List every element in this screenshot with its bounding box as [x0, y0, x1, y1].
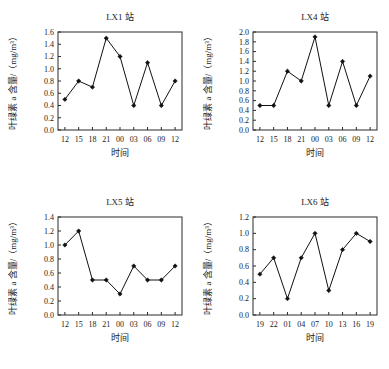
chart-title-lx6: LX6 站 — [301, 196, 329, 207]
y-tick-label-lx6-4: 0.8 — [239, 245, 249, 254]
data-point-lx4-4 — [312, 35, 316, 39]
y-tick-label-lx5-7: 1.4 — [44, 212, 54, 221]
data-point-lx6-2 — [285, 296, 289, 300]
x-tick-label-lx4-2: 18 — [283, 135, 291, 144]
y-tick-label-lx4-0: 0.0 — [239, 126, 249, 135]
y-tick-label-lx5-6: 1.2 — [44, 226, 54, 235]
plot-frame-lx5 — [58, 217, 182, 315]
data-point-lx1-8 — [173, 79, 177, 83]
y-tick-label-lx6-1: 0.2 — [239, 294, 249, 303]
x-tick-label-lx1-4: 00 — [116, 135, 124, 144]
x-tick-label-lx6-8: 19 — [366, 320, 374, 329]
x-tick-label-lx1-3: 21 — [102, 135, 110, 144]
x-tick-label-lx6-4: 07 — [311, 320, 319, 329]
y-tick-label-lx1-5: 1.0 — [44, 65, 54, 74]
x-tick-label-lx5-7: 09 — [157, 320, 165, 329]
y-tick-label-lx6-2: 0.4 — [239, 278, 249, 287]
x-tick-label-lx5-1: 15 — [75, 320, 83, 329]
y-tick-label-lx6-6: 1.2 — [239, 212, 249, 221]
chart-panel-lx4: LX4 站0.00.20.40.60.81.01.21.41.61.82.012… — [195, 0, 389, 184]
y-tick-label-lx4-2: 0.4 — [239, 106, 249, 115]
series-line-lx5 — [65, 231, 175, 294]
x-tick-label-lx4-1: 15 — [269, 135, 277, 144]
x-tick-label-lx4-6: 06 — [338, 135, 346, 144]
chart-svg-lx6: LX6 站0.00.20.40.60.81.01.219220104071013… — [195, 185, 389, 369]
chart-title-lx4: LX4 站 — [301, 11, 329, 22]
data-point-lx4-6 — [340, 59, 344, 63]
data-point-lx1-2 — [90, 85, 94, 89]
x-tick-label-lx1-7: 09 — [157, 135, 165, 144]
x-tick-label-lx5-0: 12 — [61, 320, 69, 329]
y-tick-label-lx1-3: 0.6 — [44, 89, 54, 98]
y-tick-label-lx5-2: 0.4 — [44, 282, 54, 291]
x-axis-title-lx4: 时间 — [306, 147, 324, 158]
x-tick-label-lx4-4: 00 — [311, 135, 319, 144]
data-point-lx1-7 — [159, 103, 163, 107]
x-tick-label-lx4-0: 12 — [255, 135, 263, 144]
x-tick-label-lx5-5: 03 — [130, 320, 138, 329]
y-tick-label-lx1-7: 1.4 — [44, 40, 54, 49]
y-tick-label-lx5-1: 0.2 — [44, 296, 54, 305]
x-axis-title-lx6: 时间 — [306, 332, 324, 343]
y-tick-label-lx6-3: 0.6 — [239, 261, 249, 270]
y-axis-title-lx5: 叶绿素 a 含量/（mg/m³） — [7, 217, 18, 315]
y-tick-label-lx4-4: 0.8 — [239, 87, 249, 96]
chart-title-lx1: LX1 站 — [106, 11, 134, 22]
data-point-lx6-3 — [299, 255, 303, 259]
chart-svg-lx5: LX5 站0.00.20.40.60.81.01.21.412151821000… — [0, 185, 194, 369]
chart-svg-lx4: LX4 站0.00.20.40.60.81.01.21.41.61.82.012… — [195, 0, 389, 184]
chart-panel-lx6: LX6 站0.00.20.40.60.81.01.219220104071013… — [195, 185, 389, 369]
x-tick-label-lx5-6: 06 — [144, 320, 152, 329]
x-tick-label-lx5-4: 00 — [116, 320, 124, 329]
x-tick-label-lx6-7: 16 — [352, 320, 360, 329]
x-tick-label-lx6-5: 10 — [324, 320, 332, 329]
series-line-lx4 — [259, 37, 369, 106]
y-tick-label-lx5-3: 0.6 — [44, 268, 54, 277]
y-tick-label-lx5-0: 0.0 — [44, 310, 54, 319]
y-axis-title-lx4: 叶绿素 a 含量/（mg/m³） — [202, 32, 213, 130]
series-line-lx1 — [65, 38, 175, 105]
data-point-lx6-8 — [367, 239, 371, 243]
x-axis-title-lx1: 时间 — [111, 147, 129, 158]
y-tick-label-lx4-1: 0.2 — [239, 116, 249, 125]
data-point-lx4-0 — [257, 103, 261, 107]
x-tick-label-lx6-6: 13 — [338, 320, 346, 329]
chart-svg-lx1: LX1 站0.00.20.40.60.81.01.21.41.612151821… — [0, 0, 194, 184]
x-tick-label-lx4-3: 21 — [297, 135, 305, 144]
y-tick-label-lx1-1: 0.2 — [44, 114, 54, 123]
data-point-lx4-5 — [326, 103, 330, 107]
y-tick-label-lx5-4: 0.8 — [44, 254, 54, 263]
x-tick-label-lx1-1: 15 — [75, 135, 83, 144]
y-tick-label-lx6-5: 1.0 — [239, 229, 249, 238]
plot-frame-lx4 — [253, 32, 377, 130]
y-tick-label-lx1-0: 0.0 — [44, 126, 54, 135]
y-tick-label-lx4-9: 1.8 — [239, 38, 249, 47]
x-tick-label-lx5-2: 18 — [88, 320, 96, 329]
y-tick-label-lx4-8: 1.6 — [239, 47, 249, 56]
x-tick-label-lx1-2: 18 — [88, 135, 96, 144]
y-tick-label-lx4-10: 2.0 — [239, 28, 249, 37]
chart-panel-lx5: LX5 站0.00.20.40.60.81.01.21.412151821000… — [0, 185, 194, 369]
data-point-lx6-4 — [312, 231, 316, 235]
y-tick-label-lx4-5: 1.0 — [239, 77, 249, 86]
x-tick-label-lx6-2: 01 — [283, 320, 291, 329]
data-point-lx6-5 — [326, 288, 330, 292]
x-tick-label-lx1-0: 12 — [61, 135, 69, 144]
x-tick-label-lx4-5: 03 — [324, 135, 332, 144]
x-tick-label-lx5-3: 21 — [102, 320, 110, 329]
y-tick-label-lx1-6: 1.2 — [44, 52, 54, 61]
y-tick-label-lx4-7: 1.4 — [239, 57, 249, 66]
y-axis-title-lx6: 叶绿素 a 含量/（mg/m³） — [202, 217, 213, 315]
y-tick-label-lx6-0: 0.0 — [239, 310, 249, 319]
y-tick-label-lx1-8: 1.6 — [44, 28, 54, 37]
x-tick-label-lx1-8: 12 — [171, 135, 179, 144]
x-tick-label-lx1-5: 03 — [130, 135, 138, 144]
x-tick-label-lx1-6: 06 — [144, 135, 152, 144]
data-point-lx4-7 — [354, 103, 358, 107]
data-point-lx5-2 — [90, 277, 94, 281]
data-point-lx4-8 — [367, 74, 371, 78]
x-tick-label-lx6-1: 22 — [269, 320, 277, 329]
series-line-lx6 — [259, 233, 369, 298]
y-axis-title-lx1: 叶绿素 a 含量/（mg/m³） — [7, 32, 18, 130]
data-point-lx1-6 — [145, 60, 149, 64]
